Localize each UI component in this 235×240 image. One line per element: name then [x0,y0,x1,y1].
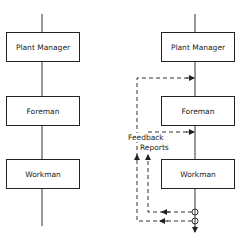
box-label: Foreman [182,107,215,116]
box-label: Plant Manager [171,43,225,52]
right-workman-box: Workman [161,159,235,189]
reports-label: Reports [140,143,169,152]
left-workman-box: Workman [6,159,80,189]
right-plant-manager-box: Plant Manager [161,32,235,62]
left-plant-manager-box: Plant Manager [6,32,80,62]
right-foreman-box: Foreman [161,96,235,126]
box-label: Workman [180,170,216,179]
box-label: Foreman [27,107,60,116]
feedback-label: Feedback [128,133,164,142]
box-label: Workman [25,170,61,179]
box-label: Plant Manager [16,43,70,52]
left-foreman-box: Foreman [6,96,80,126]
